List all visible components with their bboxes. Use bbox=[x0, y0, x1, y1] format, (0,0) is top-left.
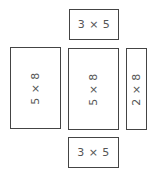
face-left: 5 × 8 bbox=[10, 47, 61, 129]
face-top-label: 3 × 5 bbox=[78, 18, 111, 31]
face-bottom: 3 × 5 bbox=[68, 137, 119, 168]
face-bottom-label: 3 × 5 bbox=[77, 146, 110, 159]
face-right: 2 × 8 bbox=[126, 48, 147, 130]
face-center-label: 5 × 8 bbox=[87, 73, 100, 106]
face-center: 5 × 8 bbox=[68, 48, 119, 130]
face-left-label: 5 × 8 bbox=[29, 72, 42, 105]
face-right-label: 2 × 8 bbox=[130, 73, 143, 106]
face-top: 3 × 5 bbox=[69, 9, 119, 40]
